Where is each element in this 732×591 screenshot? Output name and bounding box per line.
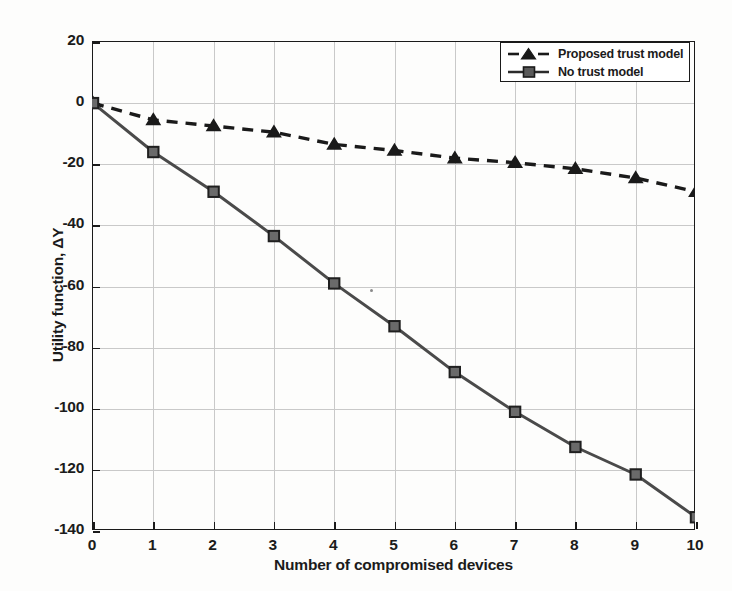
data-point-marker [691,512,695,522]
scan-artifact-speck [370,289,373,292]
x-axis-tick [696,522,698,529]
legend-sample-triangle-dashed [506,46,554,62]
data-point-marker [450,367,460,377]
data-point-marker [510,407,520,417]
data-point-marker [570,442,580,452]
legend-sample-square-solid [506,64,554,80]
y-axis-tick-label: -100 [4,398,84,416]
data-point-marker [208,187,218,197]
x-axis-tick-label: 5 [364,536,424,554]
x-axis-tick-label: 6 [424,536,484,554]
x-axis-tick-label: 10 [665,536,725,554]
y-axis-tick [93,531,100,533]
y-axis-tick-label: 0 [4,92,84,110]
data-point-marker [631,469,641,479]
x-axis-tick-label: 1 [122,536,182,554]
x-axis-tick-label: 2 [183,536,243,554]
data-point-marker [689,186,695,197]
data-point-marker [148,147,158,157]
x-axis-tick-label: 4 [303,536,363,554]
legend-label-proposed-trust-model: Proposed trust model [558,47,683,61]
data-point-marker [92,98,98,108]
legend-label-no-trust-model: No trust model [558,65,643,79]
x-axis-tick-label: 3 [243,536,303,554]
y-axis-tick-label: -80 [4,337,84,355]
data-point-marker [629,172,642,183]
legend-item-no-trust-model: No trust model [501,63,689,81]
data-point-marker [269,231,279,241]
x-axis-title: Number of compromised devices [92,556,695,574]
y-axis-tick-label: 20 [4,31,84,49]
data-point-marker [389,321,399,331]
legend: Proposed trust model No trust model [500,42,690,82]
y-axis-tick-label: -120 [4,459,84,477]
y-axis-tick-label: -60 [4,276,84,294]
series-line-no-trust-model [93,103,695,517]
chart-figure: Number of compromised devices Utility fu… [0,0,732,591]
y-axis-tick-label: -20 [4,153,84,171]
plot-area [92,41,695,530]
x-axis-tick-label: 7 [484,536,544,554]
series-plot [92,41,695,530]
x-axis-tick-label: 8 [544,536,604,554]
x-axis-tick-label: 0 [62,536,122,554]
x-axis-tick-label: 9 [605,536,665,554]
data-point-marker [329,278,339,288]
legend-item-proposed-trust-model: Proposed trust model [501,45,689,63]
y-axis-tick-label: -40 [4,214,84,232]
